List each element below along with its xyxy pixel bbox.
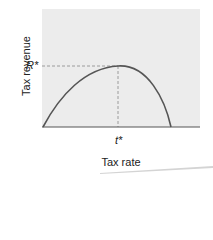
r-star-label: R* — [26, 59, 38, 71]
laffer-curve — [43, 66, 171, 127]
t-star-label: t* — [115, 134, 122, 146]
x-axis-label: Tax rate — [90, 156, 152, 168]
